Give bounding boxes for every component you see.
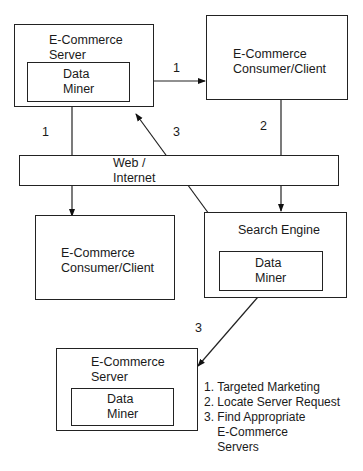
edge-label-3-down: 3	[195, 321, 202, 336]
data-miner-search-label: Data Miner	[255, 256, 286, 286]
data-miner-top-label: Data Miner	[63, 67, 94, 97]
legend-item-3: 3. Find Appropriate E-Commerce Servers	[204, 410, 340, 455]
web-internet: Web / Internet	[19, 155, 339, 186]
legend-item-1: 1. Targeted Marketing	[204, 380, 340, 395]
ecommerce-server-top-label: E-Commerce Server	[49, 33, 123, 63]
ecommerce-client-top-label: E-Commerce Consumer/Client	[233, 47, 326, 77]
data-miner-search: Data Miner	[219, 251, 323, 291]
search-engine-label: Search Engine	[238, 223, 320, 238]
data-miner-bottom-label: Data Miner	[107, 392, 138, 422]
legend: 1. Targeted Marketing 2. Locate Server R…	[204, 380, 340, 455]
ecommerce-client-bottom-label: E-Commerce Consumer/Client	[61, 246, 154, 276]
data-miner-bottom: Data Miner	[71, 388, 174, 426]
edge-label-1-down: 1	[42, 125, 49, 140]
legend-item-2: 2. Locate Server Request	[204, 395, 340, 410]
web-internet-label: Web / Internet	[113, 156, 155, 186]
ecommerce-server-top: E-Commerce Server Data Miner	[14, 24, 154, 107]
ecommerce-client-top: E-Commerce Consumer/Client	[206, 15, 348, 100]
edge-label-3-up: 3	[173, 125, 180, 140]
edge-label-2: 2	[260, 119, 267, 134]
ecommerce-server-bottom-label: E-Commerce Server	[91, 355, 165, 385]
edge-label-1-right: 1	[173, 61, 180, 76]
ecommerce-client-bottom: E-Commerce Consumer/Client	[35, 215, 175, 300]
data-miner-top: Data Miner	[27, 62, 130, 102]
search-engine: Search Engine Data Miner	[204, 212, 347, 298]
ecommerce-server-bottom: E-Commerce Server Data Miner	[56, 348, 198, 431]
